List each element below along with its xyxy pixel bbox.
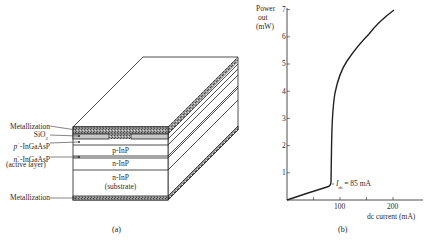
y-axis-label-line3: (mW) (256, 23, 274, 31)
layer-substrate-note: (substrate) (73, 183, 168, 191)
y-tick-6: 6 (282, 33, 286, 41)
x-tick-200: 200 (387, 203, 398, 211)
lcurve-line (287, 10, 394, 200)
layer-n-inp-substrate: n-InP (73, 174, 168, 182)
y-tick-4: 4 (282, 88, 286, 96)
x-tick-100: 100 (334, 203, 345, 211)
caption-a: (a) (112, 225, 121, 234)
annotation-value: = 85 mA (342, 179, 371, 188)
y-axis-label-line1: Power (256, 5, 275, 13)
x-axis-label: dc current (mA) (367, 213, 415, 221)
y-axis-label-line2: out (258, 14, 268, 22)
label-p-ingaasp: p+-InGaAsP (0, 140, 50, 151)
layer-n-inp: n-InP (73, 160, 168, 168)
lcurve-chart (287, 8, 423, 200)
p-ingaasp-text: -InGaAsP (20, 142, 50, 151)
threshold-annotation: Ith = 85 mA (336, 180, 371, 192)
y-tick-5: 5 (282, 60, 286, 68)
sio2-text: SiO (34, 130, 46, 139)
y-tick-1: 1 (282, 169, 286, 177)
layer-p-inp: p-InP (73, 147, 168, 155)
label-metallization-bottom: Metallization (0, 194, 50, 202)
label-active-layer: (active layer) (6, 161, 46, 169)
y-tick-3: 3 (282, 115, 286, 123)
y-tick-7: 7 (282, 6, 286, 14)
y-tick-2: 2 (282, 142, 286, 150)
caption-b: (b) (338, 225, 347, 234)
laser-structure-diagram (0, 0, 426, 240)
